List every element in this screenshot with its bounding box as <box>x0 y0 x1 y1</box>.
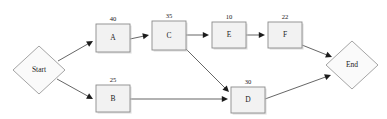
edge-line-c-d <box>184 47 225 88</box>
edge-d-end <box>265 74 331 99</box>
task-label-c: C <box>166 31 171 40</box>
edge-b-d <box>130 96 228 102</box>
edge-line-start-b <box>57 79 89 97</box>
task-node-a[interactable]: A40 <box>96 15 132 54</box>
activity-network-diagram: A40B25C35D30E10F22StartEnd <box>0 0 387 119</box>
task-weight-d: 30 <box>245 78 252 85</box>
edge-c-d <box>184 47 229 92</box>
arrowhead-b-d <box>222 96 228 102</box>
task-node-f[interactable]: F22 <box>268 13 304 50</box>
task-node-d[interactable]: D30 <box>231 78 267 115</box>
task-weight-a: 40 <box>110 15 117 22</box>
task-weight-f: 22 <box>282 13 289 20</box>
task-node-c[interactable]: C35 <box>152 12 188 52</box>
task-weight-e: 10 <box>226 13 233 20</box>
arrowhead-e-f <box>259 32 265 38</box>
terminal-label-end: End <box>346 60 358 69</box>
task-node-e[interactable]: E10 <box>212 13 248 50</box>
edge-start-b <box>57 79 93 99</box>
diagram-canvas: A40B25C35D30E10F22StartEnd <box>0 0 387 119</box>
task-weight-c: 35 <box>166 12 173 19</box>
task-label-e: E <box>227 30 232 39</box>
edge-c-e <box>186 32 209 38</box>
edge-line-d-end <box>265 77 326 99</box>
arrowhead-c-e <box>203 32 209 38</box>
terminal-node-end[interactable]: End <box>326 41 378 89</box>
edge-f-end <box>302 45 332 58</box>
arrowhead-a-c <box>142 33 149 39</box>
task-label-a: A <box>110 33 116 42</box>
task-label-f: F <box>283 30 287 39</box>
edge-line-start-a <box>58 43 89 61</box>
edge-start-a <box>58 41 93 61</box>
edge-line-f-end <box>302 45 327 55</box>
edge-a-c <box>130 33 149 39</box>
edge-line-a-c <box>130 36 144 39</box>
task-label-b: B <box>110 94 115 103</box>
task-node-b[interactable]: B25 <box>96 76 132 114</box>
edge-e-f <box>246 32 265 38</box>
task-weight-b: 25 <box>110 76 117 83</box>
task-label-d: D <box>245 95 251 104</box>
terminal-label-start: Start <box>32 65 47 74</box>
terminal-node-start[interactable]: Start <box>13 46 65 94</box>
